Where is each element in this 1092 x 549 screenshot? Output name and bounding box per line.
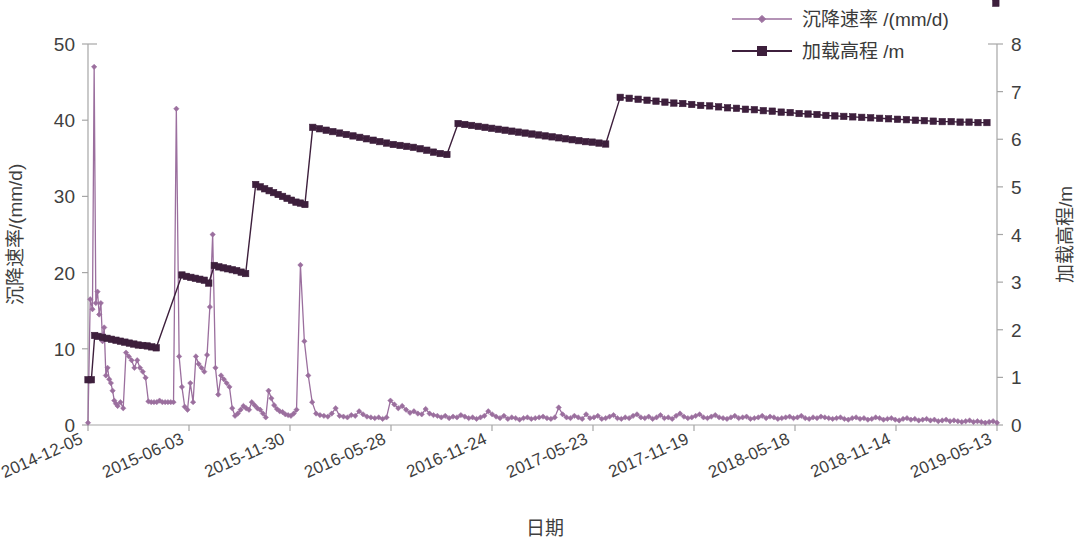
right-tick-label: 1 xyxy=(1011,367,1022,388)
loading-elevation-marker xyxy=(495,126,501,132)
loading-elevation-marker xyxy=(724,105,730,111)
legend-marker-loading-elevation xyxy=(758,47,767,56)
loading-elevation-marker xyxy=(859,114,865,120)
settlement-rate-marker xyxy=(132,365,137,370)
settlement-rate-marker xyxy=(110,388,115,393)
loading-elevation-marker xyxy=(644,97,650,103)
left-tick-label: 10 xyxy=(54,339,75,360)
loading-elevation-marker xyxy=(832,113,838,119)
plot-frame xyxy=(88,44,997,425)
loading-elevation-marker xyxy=(88,377,94,383)
loading-elevation-marker xyxy=(424,147,430,153)
settlement-rate-marker xyxy=(193,354,198,359)
loading-elevation-marker xyxy=(769,108,775,114)
loading-elevation-marker xyxy=(569,137,575,143)
loading-elevation-marker xyxy=(153,345,159,351)
loading-elevation-marker xyxy=(751,107,757,113)
settlement-rate-marker xyxy=(230,406,235,411)
right-axis-title: 加载高程/m xyxy=(1055,186,1076,283)
loading-elevation-marker xyxy=(430,149,436,155)
right-tick-label: 7 xyxy=(1011,82,1022,103)
loading-elevation-marker xyxy=(912,117,918,123)
loading-elevation-marker xyxy=(921,117,927,123)
x-tick-label: 2014-12-05 xyxy=(0,429,86,482)
loading-elevation-marker xyxy=(662,99,668,105)
left-axis-title: 沉降速率/(mm/d) xyxy=(5,164,26,305)
loading-elevation-marker xyxy=(930,118,936,124)
loading-elevation-marker xyxy=(383,140,389,146)
x-tick-label: 2016-05-28 xyxy=(301,429,388,482)
settlement-rate-marker xyxy=(216,392,221,397)
loading-elevation-marker xyxy=(876,115,882,121)
loading-elevation-marker xyxy=(356,134,362,140)
loading-elevation-marker xyxy=(796,110,802,116)
settlement-rate-marker xyxy=(266,388,271,393)
loading-elevation-marker xyxy=(302,201,308,207)
settlement-rate-marker xyxy=(306,373,311,378)
loading-elevation-marker xyxy=(706,103,712,109)
series-layer xyxy=(85,0,1000,425)
left-tick-label: 30 xyxy=(54,186,75,207)
legend-marker-settlement-rate xyxy=(758,15,765,22)
loading-elevation-marker xyxy=(509,128,515,134)
settlement-rate-marker xyxy=(207,304,212,309)
loading-elevation-marker xyxy=(343,131,349,137)
loading-elevation-marker xyxy=(589,139,595,145)
axis-titles: 沉降速率/(mm/d)加载高程/m日期 xyxy=(5,164,1076,539)
settlement-rate-marker xyxy=(298,262,303,267)
x-tick-label: 2019-05-13 xyxy=(907,429,994,482)
loading-elevation-marker xyxy=(390,141,396,147)
loading-elevation-marker xyxy=(410,144,416,150)
loading-elevation-marker xyxy=(814,111,820,117)
loading-elevation-marker xyxy=(206,280,212,286)
x-tick-label: 2018-05-18 xyxy=(705,429,792,482)
legend-label-loading-elevation: 加载高程 /m xyxy=(802,41,904,62)
loading-elevation-marker xyxy=(444,151,450,157)
loading-elevation-marker xyxy=(350,133,356,139)
loading-elevation-marker xyxy=(323,127,329,133)
loading-elevation-marker xyxy=(462,121,468,127)
legend-label-settlement-rate: 沉降速率 /(mm/d) xyxy=(802,9,949,30)
settlement-rate-marker xyxy=(121,406,126,411)
x-tick-label: 2015-11-30 xyxy=(202,429,288,481)
settlement-rate-marker xyxy=(309,399,314,404)
loading-elevation-marker xyxy=(468,122,474,128)
loading-elevation-marker xyxy=(310,124,316,130)
right-tick-label: 4 xyxy=(1011,225,1022,246)
right-tick-label: 3 xyxy=(1011,272,1022,293)
right-tick-label: 8 xyxy=(1011,34,1022,55)
settlement-rate-marker xyxy=(176,354,181,359)
loading-elevation-marker xyxy=(805,111,811,117)
bottom-axis: 2014-12-052015-06-032015-11-302016-05-28… xyxy=(0,425,997,482)
loading-elevation-marker xyxy=(841,113,847,119)
loading-elevation-marker xyxy=(562,136,568,142)
settlement-rate-marker xyxy=(302,338,307,343)
chart-legend: 沉降速率 /(mm/d)加载高程 /m xyxy=(732,9,949,62)
settlement-rate-marker xyxy=(143,375,148,380)
settlement-rate-marker xyxy=(174,106,179,111)
right-tick-label: 5 xyxy=(1011,177,1022,198)
loading-elevation-marker xyxy=(617,94,623,100)
settlement-rate-marker xyxy=(91,64,96,69)
loading-elevation-marker xyxy=(556,135,562,141)
settlement-rate-marker xyxy=(210,232,215,237)
loading-elevation-marker xyxy=(698,102,704,108)
loading-elevation-marker xyxy=(778,109,784,115)
left-axis: 01020304050 xyxy=(54,34,88,436)
loading-elevation-marker xyxy=(626,95,632,101)
loading-elevation-marker xyxy=(984,119,990,125)
loading-elevation-line xyxy=(88,97,987,379)
loading-elevation-marker xyxy=(330,128,336,134)
loading-elevation-marker xyxy=(397,142,403,148)
loading-elevation-marker xyxy=(502,127,508,133)
loading-elevation-marker xyxy=(742,106,748,112)
loading-elevation-marker xyxy=(680,100,686,106)
left-tick-label: 20 xyxy=(54,263,75,284)
loading-elevation-marker xyxy=(903,117,909,123)
loading-elevation-marker xyxy=(787,109,793,115)
loading-elevation-marker xyxy=(939,118,945,124)
x-tick-label: 2016-11-24 xyxy=(404,429,490,481)
settlement-rate-marker xyxy=(188,380,193,385)
loading-elevation-marker xyxy=(966,119,972,125)
loading-elevation-marker xyxy=(602,141,608,147)
